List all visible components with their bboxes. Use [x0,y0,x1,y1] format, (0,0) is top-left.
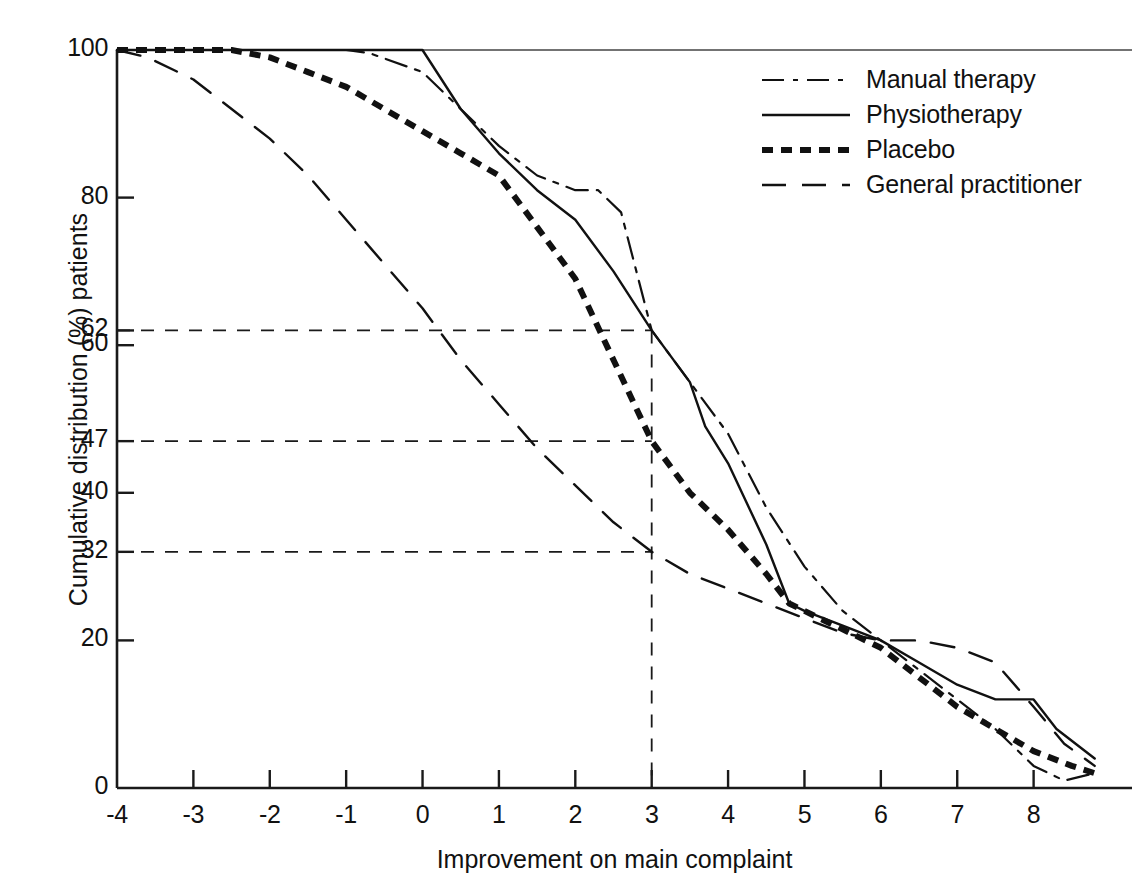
x-tick-label-4: 4 [688,800,768,829]
x-tick-label--2: -2 [230,800,310,829]
chart-legend: Manual therapyPhysiotherapyPlaceboGenera… [760,62,1120,202]
legend-item-general-practitioner[interactable]: General practitioner [760,167,1120,202]
chart-figure: 020324047606280100 -4-3-2-1012345678 Cum… [0,0,1132,895]
legend-line-sample-icon [760,105,852,125]
legend-line-sample-icon [760,140,852,160]
x-tick-label-8: 8 [994,800,1074,829]
legend-item-placebo[interactable]: Placebo [760,132,1120,167]
x-tick-label-7: 7 [917,800,997,829]
legend-item-label: Placebo [866,135,955,164]
legend-item-label: General practitioner [866,170,1082,199]
legend-line-sample-icon [760,70,852,90]
legend-item-physiotherapy[interactable]: Physiotherapy [760,97,1120,132]
y-axis-title: Cumulative distribution (%) patients [64,200,93,620]
x-tick-label--1: -1 [306,800,386,829]
x-tick-label-6: 6 [841,800,921,829]
legend-line-sample-icon [760,175,852,195]
legend-item-label: Physiotherapy [866,100,1022,129]
y-tick-label-100: 100 [20,33,108,62]
x-tick-label-0: 0 [383,800,463,829]
x-tick-label-1: 1 [459,800,539,829]
y-tick-label-0: 0 [20,771,108,800]
x-tick-label--4: -4 [77,800,157,829]
x-tick-label-3: 3 [612,800,692,829]
legend-item-label: Manual therapy [866,65,1036,94]
y-tick-label-20: 20 [20,623,108,652]
x-tick-label--3: -3 [153,800,233,829]
x-tick-label-5: 5 [764,800,844,829]
x-tick-label-2: 2 [535,800,615,829]
legend-item-manual-therapy[interactable]: Manual therapy [760,62,1120,97]
x-axis-title: Improvement on main complaint [117,845,1112,874]
